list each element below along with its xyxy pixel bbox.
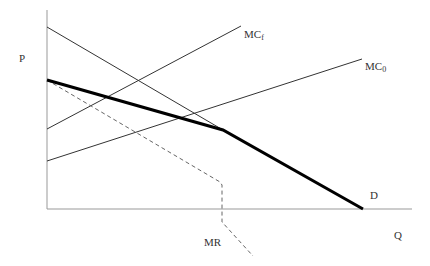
mc-f-curve [47,26,241,129]
mc-0-label-main: MC [365,60,382,72]
mr-label: MR [204,236,222,248]
demand-kinked-curve [47,80,363,209]
kinked-demand-diagram: P Q D MR MCf MC0 [0,0,430,266]
mc-0-label-sub: 0 [382,65,386,74]
mr-curve [47,80,253,256]
mc-0-curve [47,59,362,161]
d-label: D [370,189,378,201]
mc-f-label: MCf [244,28,264,42]
p-axis-label: P [19,52,25,64]
mc-f-label-main: MC [244,28,261,40]
mc-0-label: MC0 [365,60,386,74]
q-axis-label: Q [394,229,402,241]
mc-f-label-sub: f [261,33,264,42]
diagram-svg: P Q D MR MCf MC0 [0,0,430,266]
